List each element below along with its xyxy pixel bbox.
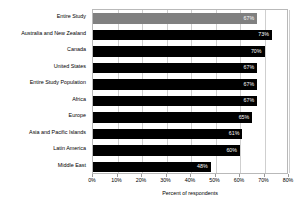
category-label: Entire Study xyxy=(57,14,86,19)
category-label: Middle East xyxy=(58,163,86,168)
category-label: Canada xyxy=(67,47,86,52)
bar: 65% xyxy=(93,112,252,123)
x-tick-label: 0% xyxy=(88,178,96,183)
bar-value-label: 70% xyxy=(251,49,265,54)
category-label: Asia and Pacific Islands xyxy=(29,130,86,135)
bar-value-label: 65% xyxy=(239,115,253,120)
bar: 48% xyxy=(93,162,211,173)
bar: 67% xyxy=(93,63,257,74)
bar: 70% xyxy=(93,46,265,57)
category-label: Africa xyxy=(72,97,86,102)
bar-value-label: 61% xyxy=(229,131,243,136)
bar: 60% xyxy=(93,145,240,156)
category-axis-labels: Entire StudyAustralia and New ZealandCan… xyxy=(0,9,89,174)
bar-row: 60% xyxy=(93,145,287,156)
plot-area: 67%73%70%67%67%67%65%61%60%48% xyxy=(92,9,288,174)
bar: 73% xyxy=(93,30,272,41)
bar: 67% xyxy=(93,96,257,107)
bar-rows: 67%73%70%67%67%67%65%61%60%48% xyxy=(93,10,287,173)
x-tick-label: 80% xyxy=(283,178,294,183)
gridline xyxy=(289,10,290,173)
category-label: Europe xyxy=(69,113,86,118)
bar-row: 67% xyxy=(93,79,287,90)
bar-row: 67% xyxy=(93,13,287,24)
bar-value-label: 67% xyxy=(244,16,258,21)
x-axis-ticks: 0%10%20%30%40%50%60%70%80% xyxy=(92,174,288,184)
category-label: United States xyxy=(54,64,86,69)
bar: 61% xyxy=(93,129,242,140)
bar-row: 48% xyxy=(93,162,287,173)
x-tick-label: 60% xyxy=(234,178,245,183)
category-label: Australia and New Zealand xyxy=(21,31,86,36)
bar-row: 67% xyxy=(93,96,287,107)
bar-row: 70% xyxy=(93,46,287,57)
bar-row: 73% xyxy=(93,30,287,41)
x-tick-label: 50% xyxy=(209,178,220,183)
bar-row: 61% xyxy=(93,129,287,140)
bar-value-label: 60% xyxy=(226,148,240,153)
x-tick-label: 40% xyxy=(185,178,196,183)
x-tick-label: 20% xyxy=(136,178,147,183)
category-label: Entire Study Population xyxy=(30,80,86,85)
bar-value-label: 48% xyxy=(197,164,211,169)
x-tick-label: 70% xyxy=(258,178,269,183)
bar: 67% xyxy=(93,13,257,24)
bar-value-label: 67% xyxy=(244,82,258,87)
x-axis-title: Percent of respondents xyxy=(92,191,288,196)
bar-value-label: 73% xyxy=(258,32,272,37)
x-tick-label: 10% xyxy=(111,178,122,183)
bar-value-label: 67% xyxy=(244,65,258,70)
bar-row: 65% xyxy=(93,112,287,123)
bar-row: 67% xyxy=(93,63,287,74)
x-tick-label: 30% xyxy=(160,178,171,183)
bar-value-label: 67% xyxy=(244,98,258,103)
bar: 67% xyxy=(93,79,257,90)
category-label: Latin America xyxy=(53,146,86,151)
bar-chart: Entire StudyAustralia and New ZealandCan… xyxy=(0,0,298,207)
